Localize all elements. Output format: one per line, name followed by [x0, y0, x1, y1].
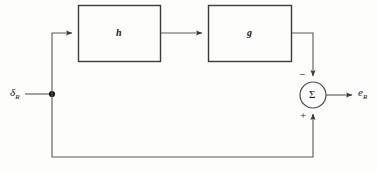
input-signal-label: δR: [10, 87, 19, 101]
block-g-label: g: [247, 28, 252, 38]
summing-junction-minus-sign: −: [299, 69, 305, 80]
output-signal-subscript: R: [363, 93, 367, 101]
input-signal-subscript: R: [15, 93, 19, 101]
output-signal-label: eR: [358, 87, 367, 101]
summing-junction-plus-sign: +: [300, 110, 306, 121]
wire-feedback: [52, 94, 313, 157]
diagram-vector-layer: [0, 0, 377, 172]
summing-junction-sigma-label: Σ: [309, 89, 315, 100]
block-h-label: h: [116, 28, 122, 38]
block-diagram-canvas: h g Σ − + δR eR: [0, 0, 377, 172]
wire-junction-to-h: [52, 33, 72, 94]
